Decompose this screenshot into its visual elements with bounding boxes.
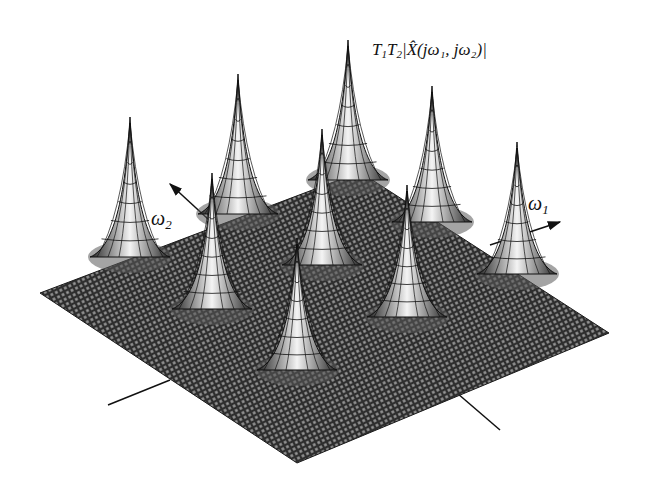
w2-axis-label: ω2 (151, 207, 172, 233)
spectral-peak (88, 117, 172, 273)
w2-axis-tail (108, 380, 170, 405)
z-axis-label: T1T2|X̂(jω₁, jω₂)| (372, 40, 487, 60)
spectral-peak (390, 86, 474, 238)
spectrum-surface-figure (0, 0, 649, 501)
w1-axis-label: ω1 (528, 192, 549, 218)
